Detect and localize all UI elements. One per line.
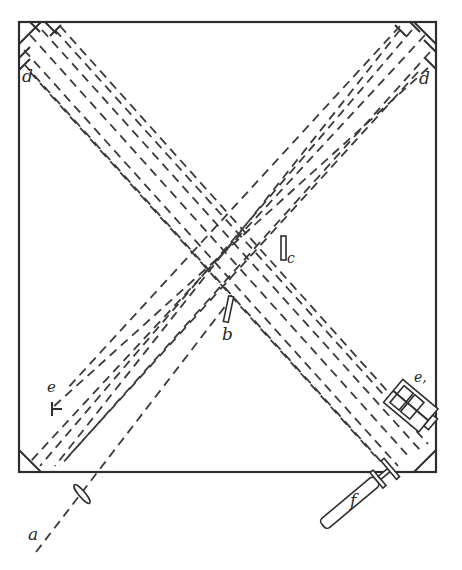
label-d-left: d xyxy=(22,66,33,86)
label-b: b xyxy=(222,324,233,344)
label-e-right: e, xyxy=(414,369,427,385)
label-e-left: e xyxy=(47,378,56,396)
source-beam xyxy=(36,300,230,552)
telescope xyxy=(315,458,399,534)
mirror-bottom-right-corner xyxy=(414,450,436,472)
beam-splitter-plate xyxy=(223,296,233,322)
diagram-canvas: d d c b e e, f a xyxy=(0,0,462,570)
compensator-plate xyxy=(281,236,286,260)
label-d-right: d xyxy=(419,68,430,88)
movable-mirror-assembly xyxy=(384,379,443,435)
label-c: c xyxy=(287,250,295,266)
label-a: a xyxy=(28,524,38,544)
beam-bundle-nw-se xyxy=(24,26,428,466)
beam-bundle-ne-sw xyxy=(30,26,430,466)
interferometer-diagram: d d c b e e, f a xyxy=(0,0,462,570)
mirror-top-left-corner xyxy=(19,22,41,44)
